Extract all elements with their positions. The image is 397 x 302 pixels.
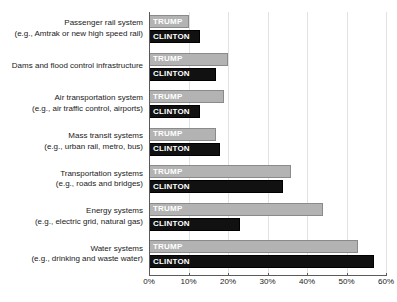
bar-trump: TRUMP: [149, 128, 216, 141]
y-axis-line: [149, 12, 150, 275]
category-label-line: (e.g., Amtrak or new high speed rail): [0, 29, 143, 40]
x-tick-label: 40%: [299, 277, 315, 286]
bar-clinton: CLINTON: [149, 180, 283, 193]
bar-series-label: CLINTON: [150, 33, 190, 41]
chart-container: Passenger rail system(e.g., Amtrak or ne…: [0, 0, 397, 302]
bar-clinton: CLINTON: [149, 105, 200, 118]
x-tick-label: 50%: [338, 277, 354, 286]
x-tick-label: 10%: [180, 277, 196, 286]
category-label-line: Passenger rail system: [0, 18, 143, 29]
bar-clinton: CLINTON: [149, 68, 216, 81]
bar-row: TRUMPCLINTON: [149, 87, 386, 125]
bar-rows: TRUMPCLINTONTRUMPCLINTONTRUMPCLINTONTRUM…: [149, 12, 386, 275]
bar-row: TRUMPCLINTON: [149, 50, 386, 88]
bar-trump: TRUMP: [149, 240, 358, 253]
category-label-line: Energy systems: [0, 206, 143, 217]
bar-trump: TRUMP: [149, 165, 291, 178]
bar-series-label: CLINTON: [150, 70, 190, 78]
bar-series-label: TRUMP: [150, 130, 182, 138]
category-label: Passenger rail system(e.g., Amtrak or ne…: [0, 18, 143, 39]
category-label: Water systems(e.g., drinking and waste w…: [0, 244, 143, 265]
category-label: Dams and flood control infrastructure: [0, 61, 143, 72]
category-label-line: Water systems: [0, 244, 143, 255]
bar-clinton: CLINTON: [149, 143, 220, 156]
category-label: Air transportation system(e.g., air traf…: [0, 93, 143, 114]
gridline-60: [386, 12, 387, 275]
bar-clinton: CLINTON: [149, 218, 240, 231]
plot-area: TRUMPCLINTONTRUMPCLINTONTRUMPCLINTONTRUM…: [149, 12, 386, 275]
bar-series-label: TRUMP: [150, 55, 182, 63]
bar-trump: TRUMP: [149, 90, 224, 103]
bar-series-label: TRUMP: [150, 18, 182, 26]
bar-series-label: TRUMP: [150, 93, 182, 101]
tick-mark-60: [386, 273, 387, 276]
x-tick-label: 30%: [259, 277, 275, 286]
bar-series-label: TRUMP: [150, 168, 182, 176]
category-axis-labels: Passenger rail system(e.g., Amtrak or ne…: [0, 12, 146, 275]
x-tick-label: 60%: [378, 277, 394, 286]
category-label-line: (e.g., electric grid, natural gas): [0, 217, 143, 228]
category-label-line: (e.g., roads and bridges): [0, 179, 143, 190]
bar-series-label: CLINTON: [150, 145, 190, 153]
bar-clinton: CLINTON: [149, 255, 374, 268]
bar-row: TRUMPCLINTON: [149, 200, 386, 238]
bar-series-label: CLINTON: [150, 258, 190, 266]
bar-series-label: TRUMP: [150, 205, 182, 213]
x-tick-label: 0%: [143, 277, 155, 286]
bar-series-label: CLINTON: [150, 183, 190, 191]
bar-trump: TRUMP: [149, 203, 323, 216]
category-label: Transportation systems(e.g., roads and b…: [0, 169, 143, 190]
category-label-line: Mass transit systems: [0, 131, 143, 142]
category-label: Energy systems(e.g., electric grid, natu…: [0, 206, 143, 227]
category-label-line: Dams and flood control infrastructure: [0, 61, 143, 72]
category-label-line: Transportation systems: [0, 169, 143, 180]
bar-trump: TRUMP: [149, 53, 228, 66]
bar-clinton: CLINTON: [149, 30, 200, 43]
category-label-line: Air transportation system: [0, 93, 143, 104]
x-axis-ticks: 0%10%20%30%40%50%60%: [149, 277, 386, 297]
category-label-line: (e.g., air traffic control, airports): [0, 104, 143, 115]
bar-row: TRUMPCLINTON: [149, 162, 386, 200]
category-label: Mass transit systems(e.g., urban rail, m…: [0, 131, 143, 152]
bar-series-label: TRUMP: [150, 243, 182, 251]
bar-row: TRUMPCLINTON: [149, 12, 386, 50]
category-label-line: (e.g., drinking and waste water): [0, 254, 143, 265]
x-tick-label: 20%: [220, 277, 236, 286]
bar-series-label: CLINTON: [150, 220, 190, 228]
bar-row: TRUMPCLINTON: [149, 237, 386, 275]
bar-series-label: CLINTON: [150, 108, 190, 116]
category-label-line: (e.g., urban rail, metro, bus): [0, 142, 143, 153]
bar-trump: TRUMP: [149, 15, 189, 28]
bar-row: TRUMPCLINTON: [149, 125, 386, 163]
